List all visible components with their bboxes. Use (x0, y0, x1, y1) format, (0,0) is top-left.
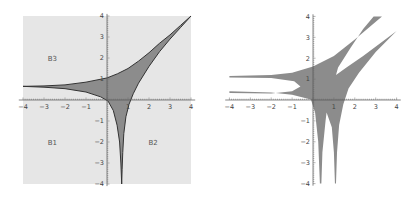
y-tick-label: −1 (300, 117, 310, 125)
x-tick-label: 4 (395, 103, 399, 111)
y-tick-label: 1 (306, 75, 310, 83)
y-tick-label: −2 (300, 138, 310, 146)
axes: −4−3−2−112344321−1−2−3−4 (225, 13, 401, 188)
y-tick-label: −3 (300, 159, 310, 167)
x-tick-label: −2 (266, 103, 276, 111)
y-tick-label: 1 (100, 75, 104, 83)
x-tick-label: −4 (18, 103, 28, 111)
right-chart-svg: −4−3−2−112344321−1−2−3−4 (210, 0, 420, 200)
right-chart: −4−3−2−112344321−1−2−3−4 (210, 0, 420, 200)
x-tick-label: 1 (126, 103, 130, 111)
region-label-b2: B2 (149, 139, 158, 147)
y-tick-label: 3 (100, 33, 104, 41)
left-chart: −4−3−2−112344321−1−2−3−4B3B1B2 (0, 0, 210, 200)
y-tick-label: −1 (94, 117, 104, 125)
y-tick-label: −4 (94, 180, 104, 188)
x-tick-label: 4 (189, 103, 193, 111)
left-chart-svg: −4−3−2−112344321−1−2−3−4B3B1B2 (0, 0, 210, 200)
region-label-b1: B1 (48, 139, 57, 147)
x-tick-label: 1 (332, 103, 336, 111)
region-label-b3: B3 (48, 55, 57, 63)
x-tick-label: −3 (246, 103, 256, 111)
y-tick-label: 4 (100, 12, 104, 20)
x-tick-label: −3 (39, 103, 49, 111)
x-tick-label: 2 (353, 103, 357, 111)
y-tick-label: −2 (94, 138, 104, 146)
y-tick-label: −3 (94, 159, 104, 167)
y-tick-label: 2 (306, 55, 310, 63)
y-tick-label: −4 (300, 180, 310, 188)
x-tick-label: −1 (287, 103, 297, 111)
x-tick-label: 3 (168, 103, 172, 111)
x-tick-label: 3 (374, 103, 378, 111)
x-tick-label: −1 (81, 103, 91, 111)
x-tick-label: −4 (225, 103, 235, 111)
y-tick-label: 4 (306, 13, 310, 21)
y-tick-label: 2 (100, 54, 104, 62)
x-tick-label: 2 (147, 103, 151, 111)
y-tick-label: 3 (306, 34, 310, 42)
x-tick-label: −2 (60, 103, 70, 111)
